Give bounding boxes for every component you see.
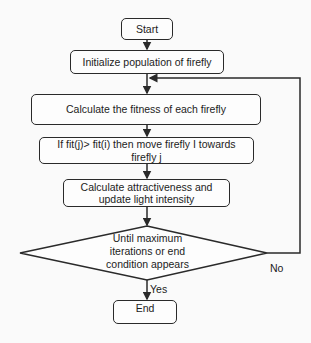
attract-label-line1: Calculate attractiveness and (81, 181, 213, 194)
attract-label-line2: update light intensity (99, 193, 195, 206)
decision-label-line3: condition appears (90, 258, 205, 271)
end-node: End (113, 300, 177, 324)
fitness-label: Calculate the fitness of each firefly (66, 103, 226, 116)
start-node: Start (121, 18, 173, 40)
move-label: If fit(j)> fit(i) then move firefly I to… (44, 138, 249, 163)
no-label: No (270, 262, 283, 274)
yes-label: Yes (150, 283, 167, 295)
fitness-node: Calculate the fitness of each firefly (31, 94, 261, 125)
decision-label-line2: iterations or end (90, 245, 205, 258)
decision-label-line1: Until maximum (90, 232, 205, 245)
move-node: If fit(j)> fit(i) then move firefly I to… (39, 137, 254, 164)
attract-node: Calculate attractiveness and update ligh… (63, 179, 230, 207)
init-label: Initialize population of firefly (83, 56, 212, 69)
start-label: Start (136, 23, 158, 36)
init-node: Initialize population of firefly (70, 50, 224, 74)
decision-label: Until maximum iterations or end conditio… (90, 232, 205, 271)
end-label: End (136, 302, 155, 315)
flowchart: Start Initialize population of firefly C… (0, 0, 311, 343)
